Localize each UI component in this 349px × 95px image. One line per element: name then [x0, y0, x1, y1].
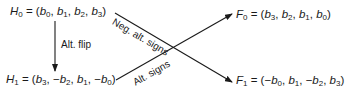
edge-label-alt-flip: Alt. flip	[61, 39, 91, 51]
node-f1: F1 = (−b0, b1, −b2, b3)	[236, 73, 344, 87]
node-h1: H1 = (b3, −b2, b1, −b0)	[6, 72, 116, 86]
node-h0: H0 = (b0, b1, b2, b3)	[10, 4, 106, 18]
node-f0: F0 = (b3, b2, b1, b0)	[236, 7, 331, 21]
